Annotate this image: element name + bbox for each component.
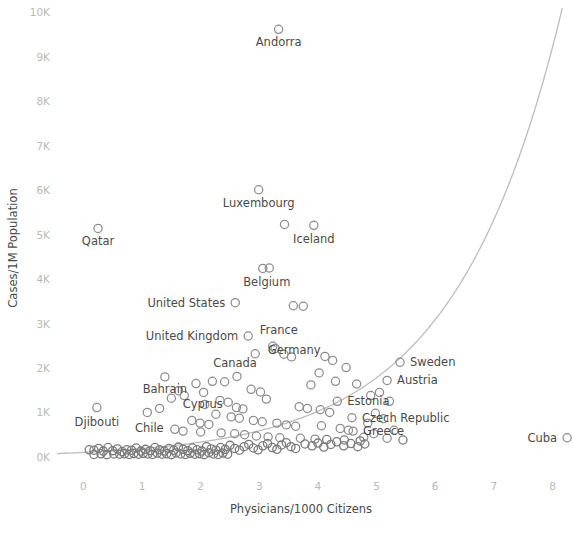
data-point [171, 425, 179, 433]
point-label: Luxembourg [223, 196, 295, 210]
data-point [252, 432, 260, 440]
x-tick-label: 7 [490, 480, 497, 492]
data-point [224, 450, 232, 458]
point-label: Chile [135, 421, 164, 435]
data-point [255, 186, 263, 194]
data-point [231, 299, 239, 307]
data-point [258, 418, 266, 426]
data-point [235, 414, 243, 422]
y-tick-label: 0K [36, 451, 51, 463]
x-tick-label: 2 [197, 480, 204, 492]
data-point [233, 372, 241, 380]
data-point [143, 408, 151, 416]
chart-plot-area: 0K1K2K3K4K5K6K7K8K9K10K 012345678 Andorr… [0, 0, 573, 538]
data-point [296, 434, 304, 442]
data-point [282, 421, 290, 429]
data-point [292, 422, 300, 430]
y-tick-label: 2K [36, 362, 51, 374]
data-point [247, 385, 255, 393]
data-point [224, 398, 232, 406]
data-point [295, 403, 303, 411]
data-point [396, 358, 404, 366]
x-tick-label: 0 [80, 480, 87, 492]
data-point [331, 377, 339, 385]
point-label: Germany [268, 343, 321, 357]
y-axis-title: Cases/1M Population [6, 188, 20, 307]
data-point [249, 416, 257, 424]
data-point [348, 414, 356, 422]
point-label: Estonia [347, 394, 389, 408]
x-tick-label: 8 [549, 480, 556, 492]
x-axis-title: Physicians/1000 Citizens [230, 502, 372, 516]
data-point [353, 380, 361, 388]
data-point [196, 419, 204, 427]
y-axis-ticks: 0K1K2K3K4K5K6K7K8K9K10K [30, 6, 51, 462]
data-point [244, 332, 252, 340]
data-point [307, 381, 315, 389]
data-point [336, 424, 344, 432]
data-point [197, 428, 205, 436]
point-label: Greece [363, 424, 404, 438]
data-point [303, 404, 311, 412]
point-label: Austria [397, 373, 438, 387]
data-point [205, 420, 213, 428]
point-label: France [260, 323, 298, 337]
y-tick-label: 5K [36, 229, 51, 241]
data-point [292, 444, 300, 452]
data-point [256, 388, 264, 396]
data-point [310, 221, 318, 229]
data-point [262, 395, 270, 403]
data-point [342, 363, 350, 371]
x-tick-label: 5 [373, 480, 380, 492]
y-tick-label: 8K [36, 95, 51, 107]
data-point [273, 445, 281, 453]
point-label: Canada [213, 356, 257, 370]
point-label: Iceland [293, 232, 335, 246]
data-point [199, 388, 207, 396]
point-label: Bahrain [143, 382, 187, 396]
point-label: United Kingdom [146, 329, 238, 343]
y-tick-label: 6K [36, 184, 51, 196]
y-tick-label: 10K [30, 6, 51, 18]
data-point [328, 356, 336, 364]
data-point [217, 429, 225, 437]
y-tick-label: 9K [36, 51, 51, 63]
data-point [299, 302, 307, 310]
data-point [227, 413, 235, 421]
y-tick-label: 7K [36, 140, 51, 152]
data-point [349, 427, 357, 435]
point-label: Belgium [243, 275, 290, 289]
data-point [188, 416, 196, 424]
data-point [289, 302, 297, 310]
point-label: United States [147, 296, 225, 310]
data-point [208, 377, 216, 385]
point-label: Cyprus [183, 397, 223, 411]
data-point [161, 373, 169, 381]
data-point [315, 369, 323, 377]
data-point [179, 427, 187, 435]
data-point [383, 376, 391, 384]
y-tick-label: 4K [36, 273, 51, 285]
trend-line [57, 8, 562, 453]
data-point [93, 403, 101, 411]
point-label: Cuba [527, 431, 557, 445]
data-point [156, 404, 164, 412]
data-point [275, 25, 283, 33]
data-point [94, 224, 102, 232]
point-label: Qatar [82, 234, 115, 248]
x-tick-label: 3 [256, 480, 263, 492]
point-label: Andorra [256, 35, 302, 49]
x-tick-label: 1 [139, 480, 146, 492]
x-tick-label: 6 [432, 480, 439, 492]
x-tick-label: 4 [315, 480, 322, 492]
data-point [563, 434, 571, 442]
point-label: Sweden [410, 355, 455, 369]
point-label: Djibouti [75, 415, 120, 429]
y-tick-label: 1K [36, 406, 51, 418]
data-point [280, 220, 288, 228]
x-axis-ticks: 012345678 [80, 480, 556, 492]
scatter-chart: 0K1K2K3K4K5K6K7K8K9K10K 012345678 Andorr… [0, 0, 573, 538]
data-point [321, 352, 329, 360]
data-point [192, 379, 200, 387]
y-tick-label: 3K [36, 318, 51, 330]
